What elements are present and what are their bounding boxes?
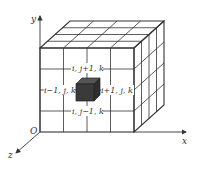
- y-axis-label: y: [30, 14, 37, 24]
- x-axis-label: x: [182, 136, 187, 146]
- center-cell: [76, 78, 100, 101]
- label-bottom-neighbor: i, j−1, k: [72, 107, 104, 116]
- label-right-neighbor: i+1, j, k: [101, 86, 133, 95]
- z-axis-label: z: [7, 150, 13, 160]
- origin-label: O: [30, 126, 38, 136]
- label-left-neighbor: i−1, j, k: [44, 86, 76, 95]
- staggered-grid-diagram: y x z O i,: [0, 0, 203, 171]
- label-top-neighbor: i, j+1, k: [72, 64, 104, 73]
